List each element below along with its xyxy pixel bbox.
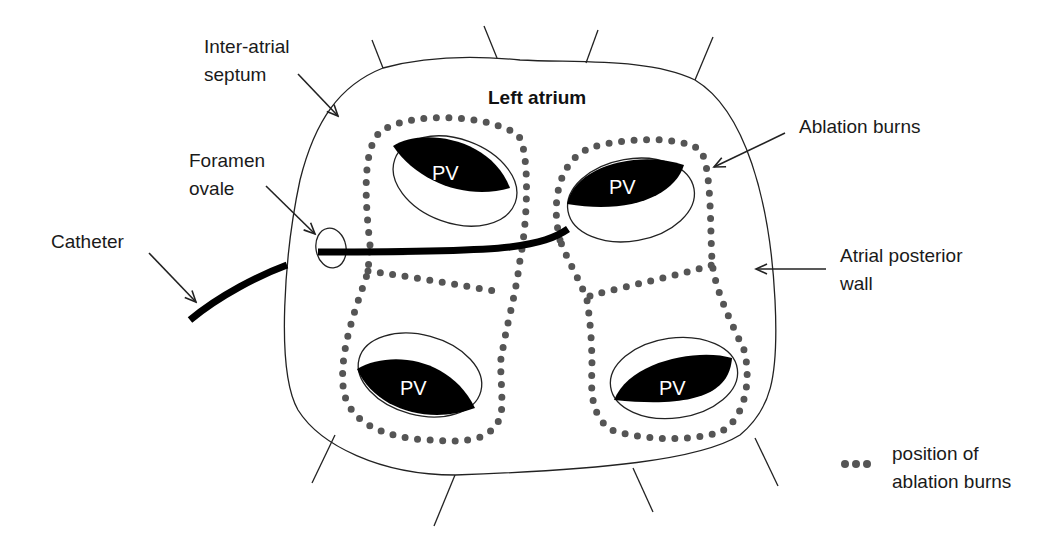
legend-line-1: position of — [892, 443, 979, 464]
diagram-title: Left atrium — [488, 87, 586, 108]
ablation-divider-right — [590, 265, 712, 296]
pv-upper-right: PV — [561, 149, 701, 252]
legend-line-2: ablation burns — [892, 471, 1011, 492]
pv-upper-left: PV — [380, 120, 529, 243]
pv-lower-right: PV — [605, 329, 743, 426]
foramen-arrow — [266, 186, 315, 234]
svg-text:PV: PV — [432, 162, 459, 184]
pv-lower-left: PV — [349, 320, 491, 430]
label-foramen-2: ovale — [189, 178, 234, 199]
label-septum-2: septum — [204, 64, 266, 85]
label-posterior-2: wall — [839, 273, 873, 294]
septum-arrow — [298, 74, 338, 116]
svg-text:PV: PV — [400, 377, 427, 399]
label-ablation-burns: Ablation burns — [799, 116, 920, 137]
label-catheter: Catheter — [51, 231, 125, 252]
legend-dot-icon — [841, 460, 849, 468]
ablation-divider-left — [368, 271, 500, 292]
svg-text:PV: PV — [659, 377, 686, 399]
ablation-arrow — [714, 133, 785, 167]
foramen-ovale — [313, 226, 349, 271]
svg-text:PV: PV — [609, 176, 636, 198]
label-posterior-1: Atrial posterior — [840, 245, 963, 266]
legend: position of ablation burns — [841, 443, 1011, 492]
catheter-arrow — [149, 253, 196, 302]
label-foramen-1: Foramen — [189, 150, 265, 171]
label-septum-1: Inter-atrial — [204, 36, 290, 57]
left-atrium-ablation-diagram: Left atrium PV PV PV PV Inter-atrial sep… — [0, 0, 1059, 548]
